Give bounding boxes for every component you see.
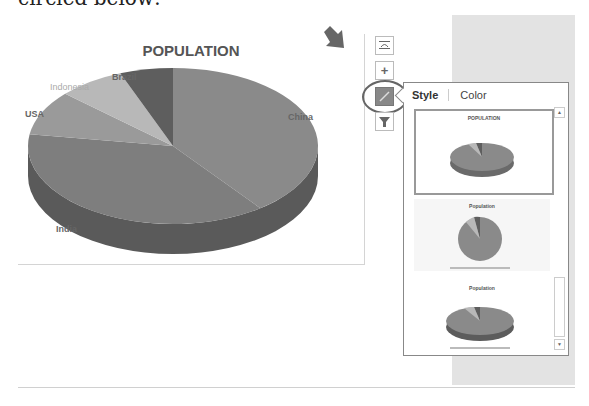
thumbnail-pie [414, 209, 550, 273]
label-indonesia: Indonesia [50, 82, 89, 92]
label-china: China [288, 112, 313, 122]
popup-tabs: Style Color [412, 89, 497, 101]
scroll-down-button[interactable]: ▼ [554, 339, 565, 350]
style-thumbnail-3[interactable]: Population [414, 281, 550, 353]
chart-styles-popup: Style Color POPULATION Population Popula… [403, 82, 569, 356]
popup-scrollbar[interactable]: ▲ ▼ [554, 107, 564, 347]
chart-area[interactable]: POPULATION Brazil Indonesia USA China In… [18, 34, 365, 265]
chart-elements-layout-button[interactable] [375, 36, 394, 55]
filter-icon [378, 115, 391, 128]
tab-style[interactable]: Style [412, 89, 449, 101]
divider-bottom [18, 387, 575, 388]
label-brazil: Brazil [112, 72, 137, 82]
thumbnail-pie [414, 291, 550, 355]
scroll-up-button[interactable]: ▲ [554, 107, 565, 118]
caption-text: circled below: [18, 0, 161, 10]
chart-filters-button[interactable] [375, 112, 394, 131]
tab-color[interactable]: Color [460, 89, 496, 101]
pointer-arrow-icon [322, 26, 346, 50]
style-thumbnail-2[interactable]: Population [414, 199, 550, 271]
scroll-thumb[interactable] [554, 277, 565, 337]
label-usa: USA [25, 109, 44, 119]
thumbnail-pie [416, 121, 552, 191]
label-india: India [56, 224, 77, 234]
style-thumbnail-1[interactable]: POPULATION [414, 109, 554, 195]
plus-icon: + [381, 63, 389, 78]
add-chart-element-button[interactable]: + [375, 61, 394, 80]
layout-icon [378, 40, 391, 51]
